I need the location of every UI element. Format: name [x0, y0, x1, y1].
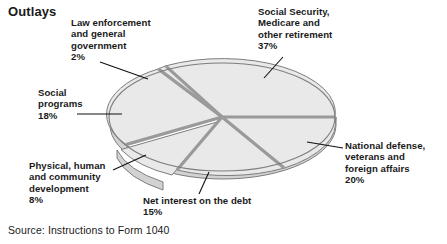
label-national-defense: National defense, veterans and foreign a… [345, 140, 445, 186]
label-law-enforcement: Law enforcement and general government 2… [71, 17, 179, 63]
leader-line-law-enforcement [100, 62, 148, 79]
label-physical-human: Physical, human and community developmen… [29, 160, 139, 206]
label-net-interest: Net interest on the debt 15% [143, 195, 283, 218]
source-note: Source: Instructions to Form 1040 [8, 224, 169, 236]
label-social-programs: Social programs 18% [38, 87, 118, 121]
outlays-pie-chart-figure: Outlays [0, 0, 447, 244]
label-social-security: Social Security, Medicare and other reti… [258, 6, 378, 52]
